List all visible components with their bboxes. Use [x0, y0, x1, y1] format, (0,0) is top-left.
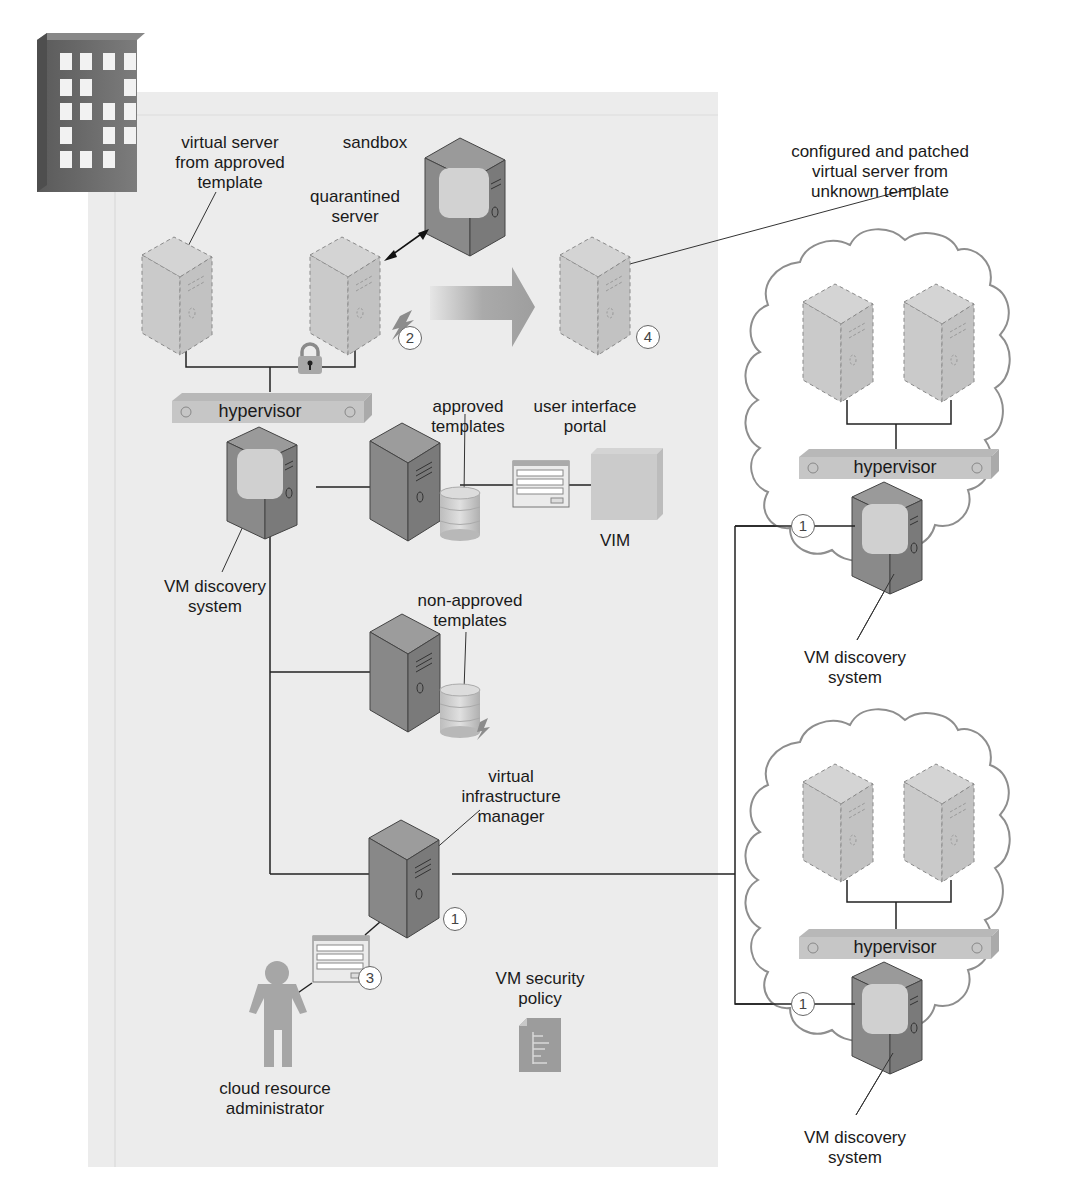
step-badge-1-manager: 1	[443, 907, 467, 931]
user-interface-portal-window	[513, 461, 569, 507]
step-badge-3: 3	[358, 966, 382, 990]
label-cloud-resource-administrator: cloud resource administrator	[205, 1079, 345, 1119]
approved-templates-database	[440, 487, 480, 541]
non-approved-templates-server	[370, 614, 440, 732]
hypervisor-cloud-1-label: hypervisor	[840, 457, 950, 478]
step-badge-4: 4	[636, 325, 660, 349]
non-approved-templates-database	[440, 684, 480, 738]
hypervisor-cloud-2-label: hypervisor	[840, 937, 950, 958]
label-configured-patched-server: configured and patched virtual server fr…	[770, 142, 990, 202]
label-approved-templates: approved templates	[423, 397, 513, 437]
step-badge-2: 2	[398, 326, 422, 350]
label-vim: VIM	[585, 531, 645, 551]
cloud-1	[745, 229, 1009, 594]
building-icon	[37, 33, 145, 192]
vim-box	[591, 448, 663, 520]
hypervisor-main-label: hypervisor	[200, 401, 320, 422]
security-policy-document-icon	[519, 1018, 561, 1072]
label-non-approved-templates: non-approved templates	[410, 591, 530, 631]
label-vm-security-policy: VM security policy	[480, 969, 600, 1009]
step-badge-1-cloud-2: 1	[791, 992, 815, 1016]
cloud-2	[745, 709, 1009, 1074]
virtual-infrastructure-manager-server	[369, 820, 439, 938]
vm-discovery-server-main	[227, 427, 297, 539]
approved-templates-server	[370, 423, 440, 541]
virtual-server-approved	[142, 237, 212, 355]
sandbox-server	[425, 138, 505, 256]
label-virtual-server-approved: virtual server from approved template	[160, 133, 300, 193]
label-sandbox: sandbox	[330, 133, 420, 153]
patched-virtual-server	[560, 237, 630, 355]
label-vm-discovery-cloud-1: VM discovery system	[795, 648, 915, 688]
label-vm-discovery-cloud-2: VM discovery system	[795, 1128, 915, 1168]
label-quarantined-server: quarantined server	[300, 187, 410, 227]
quarantined-server	[310, 237, 380, 355]
label-user-interface-portal: user interface portal	[520, 397, 650, 437]
label-vm-discovery-main: VM discovery system	[150, 577, 280, 617]
step-badge-1-cloud-1: 1	[791, 514, 815, 538]
label-virtual-infrastructure-manager: virtual infrastructure manager	[451, 767, 571, 827]
